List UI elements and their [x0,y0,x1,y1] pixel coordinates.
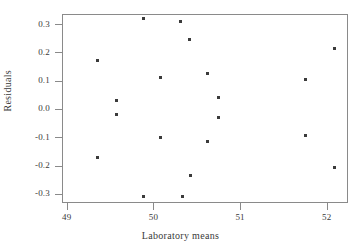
y-axis-tick-label: -0.1 [10,133,50,142]
x-axis-tick [67,203,68,210]
y-axis-tick-label: 0.0 [10,104,50,113]
data-point [115,113,118,116]
x-axis-tick-label: 52 [312,212,342,222]
data-point [188,38,191,41]
x-axis-tick-label: 49 [52,212,82,222]
y-axis-tick [55,24,62,25]
y-axis-tick-label: 0.3 [10,20,50,29]
data-point [206,72,209,75]
data-point [304,134,307,137]
scatter-plot-figure: 0.30.20.10.0-0.1-0.2-0.3 49505152 Labora… [0,0,361,250]
y-axis-tick [55,81,62,82]
data-point [159,76,162,79]
plot-area-frame [62,14,348,203]
y-axis-tick [55,194,62,195]
data-point [159,136,162,139]
data-point [333,166,336,169]
data-point [333,47,336,50]
data-point [115,99,118,102]
data-point [189,174,192,177]
x-axis-title: Laboratory means [0,230,361,242]
y-axis-tick [55,109,62,110]
y-axis-tick-label: -0.3 [10,189,50,198]
data-point [96,156,99,159]
data-point [217,116,220,119]
y-axis-tick [55,137,62,138]
data-point [206,140,209,143]
y-axis-tick-label: -0.2 [10,161,50,170]
y-axis-title-text: Residuals [2,70,14,112]
y-axis-tick-label: 0.2 [10,48,50,57]
data-point [217,96,220,99]
y-axis-tick-label: 0.1 [10,76,50,85]
data-point [179,20,182,23]
data-point [142,195,145,198]
data-point [304,78,307,81]
data-point [142,17,145,20]
x-axis-tick-label: 50 [138,212,168,222]
x-axis-tick-label: 51 [225,212,255,222]
data-point [96,59,99,62]
x-axis-tick [153,203,154,210]
data-point [181,195,184,198]
x-axis-tick [240,203,241,210]
x-axis-tick [327,203,328,210]
y-axis-tick [55,166,62,167]
y-axis-tick [55,52,62,53]
